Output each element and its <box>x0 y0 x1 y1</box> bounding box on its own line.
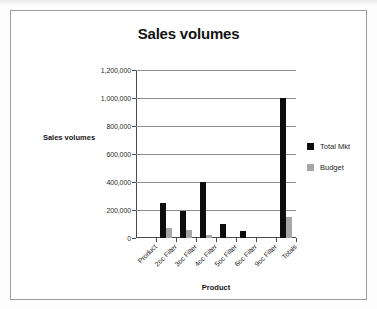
x-axis-title: Product <box>136 283 296 292</box>
bar-cluster <box>276 70 296 238</box>
bar-cluster <box>216 70 236 238</box>
bar-total-mkt <box>240 231 246 238</box>
bar-cluster <box>136 70 156 238</box>
legend-swatch-icon <box>307 164 314 171</box>
bar-total-mkt <box>160 203 166 238</box>
x-tick-mark <box>296 238 297 242</box>
bar-total-mkt <box>180 211 186 238</box>
page-background: Sales volumes Sales volumes 0200,000400,… <box>0 0 377 309</box>
bar-cluster <box>196 70 216 238</box>
y-tick-label: 400,000 <box>106 179 131 186</box>
x-tick-mark <box>196 238 197 242</box>
bar-cluster <box>176 70 196 238</box>
chart-title: Sales volumes <box>11 25 366 42</box>
y-axis-title: Sales volumes <box>29 133 109 142</box>
y-tick-label: 0 <box>127 235 131 242</box>
bar-budget <box>186 230 192 238</box>
bar-budget <box>166 228 172 238</box>
y-tick-label: 1,000,000 <box>101 95 131 102</box>
bar-cluster <box>256 70 276 238</box>
bar-cluster <box>236 70 256 238</box>
legend-item: Budget <box>307 163 350 172</box>
bar-budget <box>206 235 212 238</box>
chart-legend: Total MktBudget <box>307 142 350 184</box>
legend-label: Budget <box>320 163 344 172</box>
bar-cluster <box>156 70 176 238</box>
x-tick-mark <box>216 238 217 242</box>
x-tick-mark <box>156 238 157 242</box>
legend-item: Total Mkt <box>307 142 350 151</box>
scan-edge-band <box>0 0 377 4</box>
chart-frame: Sales volumes Sales volumes 0200,000400,… <box>10 10 367 300</box>
y-tick-mark <box>132 238 136 239</box>
bar-total-mkt <box>200 182 206 238</box>
y-tick-label: 600,000 <box>106 151 131 158</box>
y-tick-label: 1,200,000 <box>101 67 131 74</box>
x-tick-mark <box>236 238 237 242</box>
legend-label: Total Mkt <box>320 142 350 151</box>
x-tick-mark <box>256 238 257 242</box>
bar-total-mkt <box>220 224 226 238</box>
x-tick-label: Totals <box>280 243 297 260</box>
x-tick-mark <box>276 238 277 242</box>
legend-swatch-icon <box>307 143 314 150</box>
x-tick-mark <box>176 238 177 242</box>
bar-total-mkt <box>280 98 286 238</box>
y-tick-label: 200,000 <box>106 207 131 214</box>
bar-budget <box>286 217 292 238</box>
plot-area: 0200,000400,000600,000800,0001,000,0001,… <box>136 70 296 238</box>
y-tick-label: 800,000 <box>106 123 131 130</box>
